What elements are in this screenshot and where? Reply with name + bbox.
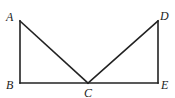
geometry-diagram: ABCDE (0, 0, 175, 98)
point-label-E: E (160, 78, 169, 92)
diagram-canvas: ABCDE (0, 0, 175, 98)
segment-AC (20, 21, 88, 83)
segment-CD (88, 21, 158, 83)
point-label-C: C (84, 86, 93, 98)
point-label-D: D (159, 9, 169, 23)
point-labels: ABCDE (5, 9, 169, 98)
point-label-A: A (5, 10, 14, 24)
point-label-B: B (6, 78, 14, 92)
segments (20, 21, 158, 83)
